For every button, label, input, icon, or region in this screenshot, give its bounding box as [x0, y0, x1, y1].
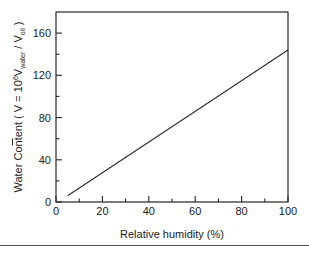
chart-figure: 0 20 40 60 80 100 0 40 80 120 160 Relati… [0, 0, 309, 253]
y-axis-title: Water Content ( V = 106Vwater / Voil ) [12, 21, 26, 192]
y-axis-title-sub-water: water [19, 51, 26, 70]
x-axis-title: Relative humidity (%) [120, 228, 224, 240]
y-tick-label: 40 [39, 154, 51, 166]
x-tick-label: 40 [143, 205, 155, 217]
y-axis-title-prefix: Water Content ( [12, 112, 24, 192]
water-content-line-chart: 0 20 40 60 80 100 0 40 80 120 160 Relati… [0, 0, 309, 253]
x-tick-label: 20 [96, 205, 108, 217]
page-bottom-rule [0, 243, 309, 253]
y-tick-label: 80 [39, 112, 51, 124]
x-tick-label: 100 [279, 205, 297, 217]
y-axis-title-eq: = 10 [12, 80, 24, 105]
y-tick-label: 160 [33, 27, 51, 39]
x-tick-label: 60 [189, 205, 201, 217]
y-axis-title-suffix: ) [12, 21, 24, 28]
y-axis-title-slash: / [12, 43, 24, 52]
x-tick-label: 0 [53, 205, 59, 217]
y-tick-label: 120 [33, 69, 51, 81]
x-tick-label: 80 [235, 205, 247, 217]
y-tick-label: 0 [45, 196, 51, 208]
svg-text:Water Content ( V = 106Vwater: Water Content ( V = 106Vwater / Voil ) [12, 21, 26, 192]
